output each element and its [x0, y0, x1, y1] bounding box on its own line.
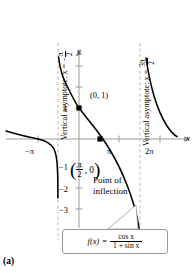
formula-leader-pointer: [108, 205, 138, 229]
function-formula-box: f(x) = cos x 1 + sin x: [62, 229, 168, 254]
asymptote-left-label-text: Vertical asymptote: x = −: [60, 57, 69, 140]
x-tick-label-2pi: 2π: [145, 147, 153, 156]
inflection-y-value: , 0: [83, 165, 94, 175]
y-tick-label-neg-2: −2: [59, 185, 68, 194]
inflection-note-line-2: inflection: [93, 186, 128, 196]
y-tick-label-1: 1: [63, 104, 67, 113]
asymptote-left-label: Vertical asymptote: x = −π2: [57, 51, 73, 140]
asymptote-right-numerator: 3π: [139, 58, 147, 67]
figure-caption: (a): [3, 256, 14, 266]
asymptote-left-numerator: π: [57, 51, 65, 57]
x-tick-label-neg-pi: −π: [25, 147, 34, 156]
x-tick-label-pi: π: [107, 147, 111, 156]
asymptote-left-denominator: 2: [65, 51, 74, 57]
formula-fraction: cos x 1 + sin x: [110, 233, 142, 250]
x-axis-label: x: [186, 133, 190, 143]
formula-lhs: f(x): [88, 237, 100, 246]
inflection-note-line-1: Point of: [93, 175, 122, 185]
asymptote-right-label-text: Vertical asymptote: x =: [142, 68, 151, 146]
y-tick-label-neg-1: −1: [59, 163, 68, 172]
y-tick-label-neg-3: −3: [59, 206, 68, 215]
formula-equals: =: [99, 237, 110, 246]
marked-point-0-1: [76, 105, 81, 110]
marked-point-inflection: [97, 136, 102, 141]
formula-denominator: 1 + sin x: [110, 241, 142, 250]
formula-numerator: cos x: [110, 233, 142, 241]
asymptote-left-fraction: π2: [57, 51, 73, 57]
asymptote-right-label: Vertical asymptote: x = 3π2: [139, 58, 155, 146]
asymptote-right-fraction: 3π2: [139, 58, 155, 67]
asymptote-right-denominator: 2: [147, 58, 156, 67]
curve-left-branch: [6, 131, 58, 198]
y-axis-label: y: [77, 46, 81, 56]
point-label-0-1: (0, 1): [90, 91, 108, 100]
